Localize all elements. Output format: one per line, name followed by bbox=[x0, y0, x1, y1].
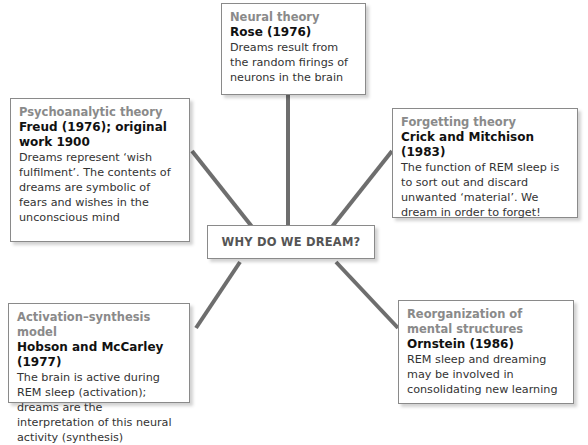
theory-description: REM sleep and dreaming may be involved i… bbox=[407, 352, 565, 397]
theory-author: Crick and Mitchison (1983) bbox=[401, 130, 569, 160]
theory-category: Neural theory bbox=[230, 10, 357, 25]
theory-box-reorganization: Reorganization of mental structures Orns… bbox=[398, 300, 574, 404]
theory-description: Dreams result from the random firings of… bbox=[230, 40, 357, 85]
central-question: WHY DO WE DREAM? bbox=[207, 225, 375, 259]
theory-author: Ornstein (1986) bbox=[407, 337, 565, 352]
connector-psychoanalytic bbox=[192, 151, 253, 228]
theory-description: The function of REM sleep is to sort out… bbox=[401, 160, 569, 220]
theory-author: Freud (1976); original work 1900 bbox=[19, 120, 181, 150]
theory-description: The brain is active during REM sleep (ac… bbox=[17, 370, 181, 445]
theory-category: Forgetting theory bbox=[401, 115, 569, 130]
theory-box-activation-synthesis: Activation–synthesis model Hobson and Mc… bbox=[8, 303, 190, 403]
theory-category: Psychoanalytic theory bbox=[19, 105, 181, 120]
theory-box-forgetting: Forgetting theory Crick and Mitchison (1… bbox=[392, 108, 578, 218]
theory-box-psychoanalytic: Psychoanalytic theory Freud (1976); orig… bbox=[10, 98, 190, 242]
theory-author: Hobson and McCarley (1977) bbox=[17, 340, 181, 370]
connector-reorganization bbox=[336, 262, 398, 328]
theory-description: Dreams represent ‘wish fulfilment’. The … bbox=[19, 150, 181, 225]
theory-box-neural: Neural theory Rose (1976) Dreams result … bbox=[221, 3, 366, 95]
central-question-label: WHY DO WE DREAM? bbox=[222, 235, 361, 249]
theory-author: Rose (1976) bbox=[230, 25, 357, 40]
connector-activation bbox=[196, 262, 240, 328]
theory-category: Reorganization of mental structures bbox=[407, 307, 565, 337]
theory-category: Activation–synthesis model bbox=[17, 310, 181, 340]
connector-forgetting bbox=[331, 151, 392, 228]
